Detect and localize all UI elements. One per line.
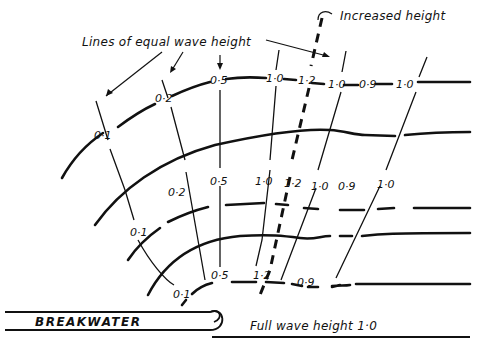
label: 1·0 [328,78,346,91]
labels-row-1: 0·1 0·2 0·5 1·0 1·2 1·0 0·9 1·0 [94,72,414,142]
label: 0·5 [211,269,229,282]
increased-height-hook [318,12,332,20]
label: 1·0 [311,180,329,193]
diffraction-diagram: 0·1 0·2 0·5 1·0 1·2 1·0 0·9 1·0 0·1 0·2 … [0,0,478,355]
lines-of-equal-height-label: Lines of equal wave height [82,35,252,49]
label: 0·5 [210,175,228,188]
label: 0·9 [297,276,315,289]
label: 0·2 [168,186,186,199]
label: 1·0 [266,72,284,85]
breakwater: BREAKWATER [5,311,222,330]
labels-row-2: 0·1 0·2 0·5 1·0 1·2 1·0 0·9 1·0 [130,175,395,239]
breakwater-label: BREAKWATER [35,315,141,329]
wave-crest-1 [62,77,470,178]
label: 0·1 [173,288,191,301]
label: 0·9 [359,78,377,91]
label: 1·2 [298,74,316,87]
wave-crest-5 [182,282,470,305]
label: 1·2 [284,177,302,190]
label: 0·2 [155,92,173,105]
full-wave-height-label: Full wave height 1·0 [250,319,377,333]
label: 1·0 [396,78,414,91]
label: 1·0 [255,175,273,188]
label: 1·0 [377,178,395,191]
increased-height-label: Increased height [340,9,447,23]
isoline-0.2 [162,80,205,280]
label: 0·1 [130,226,148,239]
label: 1·2 [253,269,271,282]
label: 0·1 [94,129,112,142]
label: 0·9 [338,180,356,193]
label: 0·5 [210,74,228,87]
